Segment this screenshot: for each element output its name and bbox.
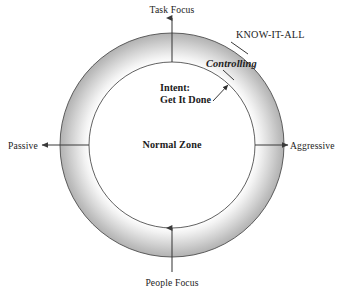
callout-label-intent: Intent: Get It Done xyxy=(160,82,211,106)
center-label-normal-zone: Normal Zone xyxy=(0,139,344,151)
callout-label-controlling: Controlling xyxy=(206,58,257,70)
axis-label-task-focus: Task Focus xyxy=(0,4,344,15)
axis-label-people-focus: People Focus xyxy=(0,277,344,288)
callout-label-intent-line-1: Intent: xyxy=(160,82,211,94)
leader-arrow-intent xyxy=(213,85,228,101)
diagram-canvas: Task Focus People Focus Passive Aggressi… xyxy=(0,0,344,294)
callout-label-intent-line-2: Get It Done xyxy=(160,94,211,106)
callout-label-know-it-all: KNOW-IT-ALL xyxy=(236,29,305,41)
